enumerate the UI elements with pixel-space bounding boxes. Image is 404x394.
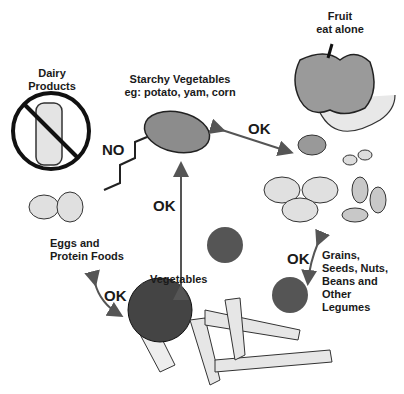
grains-label: Grains, Seeds, Nuts, Beans and Other Leg…	[322, 249, 404, 314]
starchy-label: Starchy Vegetables eg: potato, yam, corn	[110, 73, 250, 99]
ok-starchy-grains-label: OK	[248, 120, 271, 137]
grains-label-line2: Seeds, Nuts,	[322, 262, 404, 275]
fruit-label: Fruit eat alone	[300, 10, 380, 36]
fruit-label-line1: Fruit	[300, 10, 380, 23]
fruit-label-line2: eat alone	[300, 23, 380, 36]
ok-starchy-vegetables-label: OK	[153, 197, 176, 214]
grains-label-line1: Grains,	[322, 249, 404, 262]
grains-label-line3: Beans and	[322, 275, 404, 288]
starchy-label-line2: eg: potato, yam, corn	[110, 86, 250, 99]
eggs-label-line1: Eggs and	[50, 237, 150, 250]
vegetables-label: Vegetables	[150, 273, 230, 286]
starchy-label-line1: Starchy Vegetables	[110, 73, 250, 86]
potato-icon	[141, 106, 214, 159]
eggs-icon	[29, 192, 83, 222]
dairy-label: Dairy Products	[22, 67, 82, 93]
dairy-label-line2: Products	[22, 80, 82, 93]
fruit-icon	[295, 44, 395, 131]
grains-label-line4: Other	[322, 288, 404, 301]
ok-vegetables-grains-label: OK	[287, 250, 310, 267]
diagram-artwork	[0, 0, 404, 394]
eggs-label-line2: Protein Foods	[50, 250, 150, 263]
nuts-grains-icon	[264, 135, 386, 222]
no-edge-label: NO	[102, 141, 125, 158]
grains-label-line5: Legumes	[322, 301, 404, 314]
dairy-label-line1: Dairy	[22, 67, 82, 80]
dairy-no-sign-icon	[13, 93, 89, 169]
eggs-label: Eggs and Protein Foods	[50, 237, 150, 263]
ok-vegetables-protein-label: OK	[104, 287, 127, 304]
